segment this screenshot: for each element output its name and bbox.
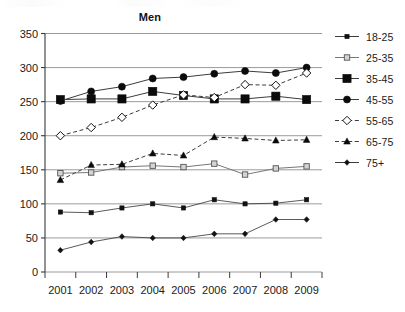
data-point: [180, 74, 187, 81]
y-tick-label: 300: [20, 62, 38, 74]
data-point: [87, 123, 95, 131]
data-point: [243, 202, 247, 206]
data-point: [242, 231, 247, 237]
legend-point: [345, 34, 349, 38]
y-tick-label: 100: [20, 198, 38, 210]
data-point: [56, 132, 64, 140]
data-point: [149, 101, 157, 109]
data-point: [88, 170, 93, 175]
data-point: [241, 80, 249, 88]
series-line: [60, 137, 306, 180]
data-point: [58, 210, 62, 214]
legend-marker-icon: [332, 26, 362, 47]
data-point: [273, 217, 278, 223]
data-point: [57, 97, 64, 104]
data-point: [303, 95, 311, 103]
x-tick-label: 2003: [110, 284, 134, 296]
legend-item-35-45[interactable]: 35-45: [332, 68, 405, 89]
data-point: [149, 75, 156, 82]
legend-item-55-65[interactable]: 55-65: [332, 110, 405, 131]
y-tick-label: 150: [20, 164, 38, 176]
legend-marker-icon: [332, 152, 362, 173]
chart-legend: 18-2525-3535-4545-5555-6565-7575+: [332, 26, 405, 173]
series-75plus: [58, 217, 309, 253]
data-point: [302, 69, 310, 77]
data-point: [211, 133, 218, 139]
data-point: [272, 81, 280, 89]
data-point: [118, 113, 126, 121]
x-tick-label: 2002: [79, 284, 103, 296]
legend-item-25-35[interactable]: 25-35: [332, 47, 405, 68]
data-point: [118, 83, 125, 90]
data-point: [242, 172, 247, 177]
legend-point: [344, 96, 351, 103]
data-point: [149, 87, 157, 95]
data-point: [89, 239, 94, 245]
data-point: [57, 176, 64, 182]
data-point: [211, 70, 218, 77]
x-tick-label: 2006: [202, 284, 226, 296]
x-tick-label: 2007: [233, 284, 257, 296]
y-tick-label: 250: [20, 96, 38, 108]
data-point: [118, 95, 126, 103]
data-point: [212, 231, 217, 237]
legend-marker-icon: [332, 89, 362, 110]
chart-container: Men 050100150200250300350200120022003200…: [0, 0, 405, 312]
data-point: [272, 92, 280, 100]
legend-point: [344, 55, 349, 60]
data-point: [150, 163, 155, 168]
y-tick-label: 350: [20, 28, 38, 40]
legend-item-75plus[interactable]: 75+: [332, 152, 405, 173]
y-tick-label: 50: [26, 232, 38, 244]
legend-marker-icon: [332, 110, 362, 131]
legend-item-65-75[interactable]: 65-75: [332, 131, 405, 152]
series-65-75: [57, 133, 310, 182]
data-point: [272, 70, 279, 77]
data-point: [242, 67, 249, 74]
data-point: [181, 206, 185, 210]
data-point: [58, 247, 63, 253]
data-point: [304, 217, 309, 223]
data-point: [119, 234, 124, 240]
data-point: [273, 166, 278, 171]
series-25-35: [58, 161, 310, 177]
series-18-25: [58, 198, 308, 215]
series-line: [60, 73, 306, 136]
x-tick-label: 2004: [140, 284, 164, 296]
data-point: [87, 95, 95, 103]
legend-label: 45-55: [362, 94, 393, 106]
legend-point: [343, 74, 351, 82]
x-tick-label: 2005: [171, 284, 195, 296]
legend-marker-icon: [332, 47, 362, 68]
data-point: [58, 170, 63, 175]
legend-label: 75+: [362, 157, 384, 169]
data-point: [303, 136, 310, 142]
legend-label: 18-25: [362, 31, 393, 43]
x-tick-label: 2008: [264, 284, 288, 296]
legend-label: 55-65: [362, 115, 393, 127]
legend-marker-icon: [332, 131, 362, 152]
data-point: [120, 206, 124, 210]
data-point: [304, 164, 309, 169]
data-point: [89, 211, 93, 215]
legend-label: 35-45: [362, 73, 393, 85]
data-point: [151, 202, 155, 206]
legend-point: [344, 160, 349, 166]
data-point: [150, 235, 155, 241]
legend-point: [343, 116, 351, 124]
legend-item-18-25[interactable]: 18-25: [332, 26, 405, 47]
data-point: [212, 198, 216, 202]
legend-marker-icon: [332, 68, 362, 89]
data-point: [212, 161, 217, 166]
data-point: [149, 150, 156, 156]
legend-item-45-55[interactable]: 45-55: [332, 89, 405, 110]
x-tick-label: 2001: [48, 284, 72, 296]
data-point: [274, 201, 278, 205]
legend-label: 65-75: [362, 136, 393, 148]
data-point: [181, 164, 186, 169]
data-point: [241, 95, 249, 103]
data-point: [181, 235, 186, 241]
y-tick-label: 0: [32, 266, 38, 278]
data-point: [88, 88, 95, 95]
data-point: [305, 198, 309, 202]
